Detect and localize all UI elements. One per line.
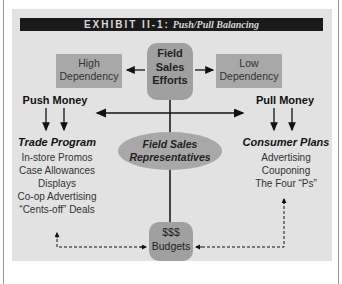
trade-program-list: In-store Promos Case Allowances Displays… <box>10 151 104 216</box>
trade-item: Co-op Advertising <box>10 190 104 203</box>
low-dependency-line1: Low <box>216 57 282 70</box>
low-dependency-line2: Dependency <box>216 70 282 83</box>
budgets-symbol: $$$ <box>149 226 193 240</box>
budgets-label: Budgets <box>149 240 193 254</box>
field-sales-reps-ellipse: Field Sales Representatives <box>118 132 222 170</box>
push-money-label: Push Money <box>18 94 92 106</box>
high-dependency-line2: Dependency <box>56 70 122 83</box>
field-sales-reps-line1: Field Sales <box>118 138 222 151</box>
pull-money-label: Pull Money <box>248 94 322 106</box>
budgets-box: $$$ Budgets <box>149 222 193 261</box>
trade-item: Case Allowances <box>10 164 104 177</box>
field-sales-efforts-box: Field Sales Efforts <box>147 43 193 100</box>
field-sales-efforts-line3: Efforts <box>147 74 193 88</box>
consumer-plans-list: Advertising Couponing The Four “Ps” <box>240 151 332 190</box>
consumer-item: Couponing <box>240 164 332 177</box>
field-sales-efforts-line1: Field <box>147 47 193 61</box>
trade-program-title: Trade Program <box>14 136 100 148</box>
low-dependency-box: Low Dependency <box>216 54 282 88</box>
trade-item: Displays <box>10 177 104 190</box>
trade-item: “Cents-off” Deals <box>10 203 104 216</box>
high-dependency-box: High Dependency <box>56 54 122 88</box>
trade-item: In-store Promos <box>10 151 104 164</box>
consumer-item: Advertising <box>240 151 332 164</box>
high-dependency-line1: High <box>56 57 122 70</box>
field-sales-efforts-line2: Sales <box>147 61 193 75</box>
field-sales-reps-line2: Representatives <box>118 151 222 164</box>
consumer-item: The Four “Ps” <box>240 177 332 190</box>
consumer-plans-title: Consumer Plans <box>238 136 334 148</box>
